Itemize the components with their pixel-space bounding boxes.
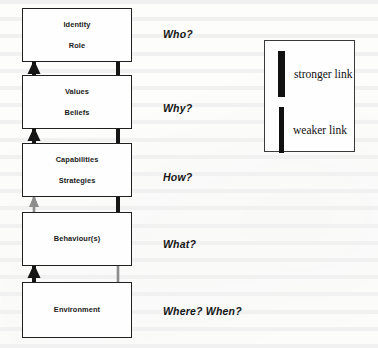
level-box-identity[interactable]: Identity Role	[22, 8, 132, 62]
diagram-canvas: Identity Role Values Beliefs Capabilitie…	[0, 0, 378, 348]
level-label-identity-2: Role	[69, 42, 85, 49]
level-box-environment[interactable]: Environment	[22, 282, 132, 338]
level-box-values[interactable]: Values Beliefs	[22, 75, 132, 129]
arrow-environment-to-behaviours	[28, 264, 41, 284]
legend-box: stronger link weaker link	[264, 40, 355, 152]
legend-item-weaker-link: weaker link	[279, 107, 347, 153]
weaker-link-bar-icon	[279, 107, 284, 153]
stronger-link-bar-icon	[278, 51, 285, 97]
level-label-values-2: Beliefs	[65, 109, 90, 116]
level-label-environment-1: Environment	[54, 306, 100, 313]
question-label-where-when: Where? When?	[163, 305, 242, 317]
legend-label-stronger-link: stronger link	[294, 68, 352, 80]
level-label-behaviours-1: Behaviour(s)	[54, 235, 100, 242]
legend-item-stronger-link: stronger link	[278, 51, 352, 97]
level-label-identity-1: Identity	[63, 21, 90, 28]
question-label-why: Why?	[163, 102, 192, 114]
level-label-capabilities-2: Strategies	[59, 177, 96, 184]
level-box-capabilities[interactable]: Capabilities Strategies	[22, 143, 132, 197]
question-label-what: What?	[163, 238, 196, 250]
legend-label-weaker-link: weaker link	[293, 124, 347, 136]
question-label-how: How?	[163, 171, 192, 183]
question-label-who: Who?	[163, 28, 193, 40]
level-box-behaviours[interactable]: Behaviour(s)	[22, 212, 132, 266]
level-label-capabilities-1: Capabilities	[56, 156, 99, 163]
level-label-values-1: Values	[65, 88, 89, 95]
